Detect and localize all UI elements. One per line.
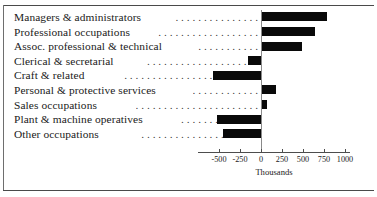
bar bbox=[213, 71, 261, 80]
x-axis-tick bbox=[324, 149, 325, 153]
dot-leader: . . . . . . . . . . . bbox=[198, 39, 258, 54]
x-axis-line bbox=[198, 152, 350, 153]
bar bbox=[261, 85, 276, 94]
chart-row: Plant & machine operatives. . . . . . . … bbox=[0, 112, 377, 127]
x-axis-tick-label: 0 bbox=[259, 155, 263, 164]
chart-figure: Managers & administrators. . . . . . . .… bbox=[0, 0, 377, 197]
chart-row: Managers & administrators. . . . . . . .… bbox=[0, 10, 377, 25]
x-axis-tick bbox=[261, 149, 262, 153]
chart-row: Other occupations. . . . . . . . . . . .… bbox=[0, 127, 377, 142]
dot-leader: . . . . . . . . . . . . . . . bbox=[175, 10, 258, 25]
bar bbox=[261, 27, 315, 36]
bar bbox=[248, 56, 261, 65]
chart-row: Assoc. professional & technical. . . . .… bbox=[0, 39, 377, 54]
category-label: Professional occupations bbox=[14, 25, 130, 40]
category-label: Personal & protective services bbox=[14, 83, 156, 98]
bar bbox=[217, 115, 261, 124]
category-label: Clerical & secretarial bbox=[14, 54, 114, 69]
x-axis-tick-label: 1000 bbox=[337, 155, 353, 164]
dot-leader: . . . . . . . . . . . . . . . . . . bbox=[158, 25, 258, 40]
bar bbox=[261, 12, 327, 21]
x-axis-title: Thousands bbox=[198, 167, 350, 177]
x-axis-tick-label: 250 bbox=[276, 155, 288, 164]
x-axis-tick bbox=[345, 149, 346, 153]
chart-row: Personal & protective services. . . . . … bbox=[0, 83, 377, 98]
dot-leader: . . . . . . . . . . . . . . . . . . . . bbox=[147, 54, 258, 69]
category-label: Assoc. professional & technical bbox=[14, 39, 162, 54]
x-axis-tick-label: -500 bbox=[211, 155, 226, 164]
chart-row: Clerical & secretarial. . . . . . . . . … bbox=[0, 54, 377, 69]
category-label: Managers & administrators bbox=[14, 10, 141, 25]
category-label: Plant & machine operatives bbox=[14, 112, 143, 127]
bar bbox=[261, 42, 302, 51]
chart-row: Professional occupations. . . . . . . . … bbox=[0, 25, 377, 40]
x-axis-tick bbox=[219, 149, 220, 153]
category-label: Sales occupations bbox=[14, 98, 97, 113]
dot-leader: . . . . . . . . . . . . bbox=[193, 83, 259, 98]
bar bbox=[223, 129, 261, 138]
x-axis-tick bbox=[282, 149, 283, 153]
category-label: Craft & related bbox=[14, 68, 84, 83]
category-label: Other occupations bbox=[14, 127, 99, 142]
frame-rule-top bbox=[3, 5, 374, 6]
zero-baseline bbox=[261, 10, 262, 153]
chart-row: Sales occupations. . . . . . . . . . . .… bbox=[0, 98, 377, 113]
x-axis-tick bbox=[303, 149, 304, 153]
chart-row: Craft & related. . . . . . . . . . . . .… bbox=[0, 68, 377, 83]
x-axis-tick-label: 500 bbox=[297, 155, 309, 164]
x-axis-tick-label: -250 bbox=[232, 155, 247, 164]
x-axis-tick-label: 750 bbox=[318, 155, 330, 164]
dot-leader: . . . . . . . . . . . . . . . . . . . . … bbox=[136, 98, 258, 113]
x-axis: -500-25002505007501000 Thousands bbox=[0, 152, 377, 192]
x-axis-tick bbox=[240, 149, 241, 153]
